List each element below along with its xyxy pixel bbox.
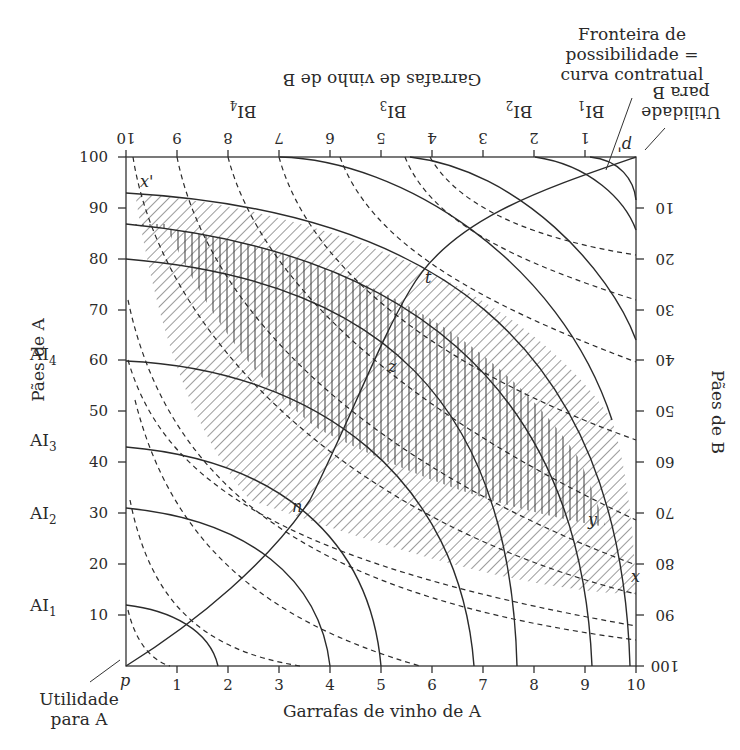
right-tick: 10 <box>655 199 674 217</box>
top-axis-label: Garrafas de vinho de B <box>283 70 481 90</box>
y-tick: 60 <box>89 351 108 369</box>
bi2-label: BI2 <box>506 98 533 122</box>
utility-a-annotation: Utilidade para A <box>39 660 120 729</box>
svg-text:curva contratual: curva contratual <box>561 64 704 84</box>
top-tick: 2 <box>529 129 539 147</box>
x-tick: 1 <box>172 676 182 694</box>
origin-a-label: p <box>120 671 130 690</box>
x-tick: 2 <box>223 676 233 694</box>
y-tick: 90 <box>89 199 108 217</box>
svg-text:para B: para B <box>652 83 709 103</box>
ai2-label: AI2 <box>29 503 57 527</box>
x-tick: 6 <box>427 676 437 694</box>
top-tick: 8 <box>223 129 233 147</box>
x-tick: 10 <box>626 676 645 694</box>
left-axis: 10 20 30 40 50 60 70 80 90 100 Pães de A… <box>28 148 126 624</box>
top-tick: 6 <box>325 129 335 147</box>
y-tick: 50 <box>89 402 108 420</box>
x-axis-label: Garrafas de vinho de A <box>283 701 482 721</box>
y-tick: 80 <box>89 250 108 268</box>
right-tick: 80 <box>655 555 674 573</box>
top-tick: 10 <box>116 129 135 147</box>
right-tick: 60 <box>655 453 674 471</box>
right-tick: 70 <box>655 504 674 522</box>
x-tick: 4 <box>325 676 335 694</box>
x-tick: 5 <box>376 676 386 694</box>
point-z-label: z <box>387 357 397 376</box>
top-tick: 5 <box>376 129 386 147</box>
point-y-label: y <box>587 510 598 529</box>
svg-text:para A: para A <box>51 709 109 729</box>
point-n-label: n <box>292 497 302 516</box>
x-tick: 3 <box>274 676 284 694</box>
svg-text:Fronteira de: Fronteira de <box>578 24 686 44</box>
ai1-label: AI1 <box>29 595 57 619</box>
y-tick: 30 <box>89 504 108 522</box>
y-tick: 20 <box>89 555 108 573</box>
y-tick: 100 <box>79 148 108 166</box>
x-tick: 7 <box>478 676 488 694</box>
svg-text:Utilidade: Utilidade <box>39 689 118 709</box>
bottom-axis: 1 2 3 4 5 6 7 8 9 10 Garrafas de vinho d… <box>172 666 645 721</box>
y-tick: 10 <box>89 606 108 624</box>
y-tick: 70 <box>89 301 108 319</box>
mutually-beneficial-region <box>126 193 636 594</box>
right-axis-label: Pães de B <box>708 370 728 454</box>
point-t-label: t <box>425 268 432 287</box>
right-tick: 30 <box>655 301 674 319</box>
top-axis: 10 9 8 7 6 5 4 3 2 1 Garrafas de vinho d… <box>116 70 604 157</box>
bi3-label: BI3 <box>380 98 407 122</box>
svg-text:Utilidade: Utilidade <box>641 103 720 123</box>
right-tick: 20 <box>655 250 674 268</box>
right-tick: 100 <box>651 657 680 675</box>
right-axis: 10 20 30 40 50 60 70 80 90 100 Pães de B <box>636 199 728 675</box>
x-tick: 9 <box>580 676 590 694</box>
origin-b-label: p' <box>617 136 632 155</box>
top-tick: 1 <box>580 129 590 147</box>
top-tick: 9 <box>172 129 182 147</box>
bi4-label: BI4 <box>229 98 256 122</box>
top-tick: 4 <box>427 129 437 147</box>
ai3-label: AI3 <box>29 430 57 454</box>
top-tick: 7 <box>274 129 284 147</box>
right-tick: 90 <box>655 606 674 624</box>
bi1-label: BI1 <box>578 98 605 122</box>
y-tick: 40 <box>89 453 108 471</box>
utility-b-annotation: Utilidade para B <box>641 83 720 150</box>
right-tick: 40 <box>655 351 674 369</box>
edgeworth-box-diagram: 1 2 3 4 5 6 7 8 9 10 Garrafas de vinho d… <box>0 0 740 750</box>
right-tick: 50 <box>655 402 674 420</box>
x-tick: 8 <box>529 676 539 694</box>
point-x-label: x <box>631 567 640 586</box>
point-x-prime-label: x' <box>140 172 153 191</box>
top-tick: 3 <box>478 129 488 147</box>
svg-text:possibilidade =: possibilidade = <box>566 44 699 64</box>
